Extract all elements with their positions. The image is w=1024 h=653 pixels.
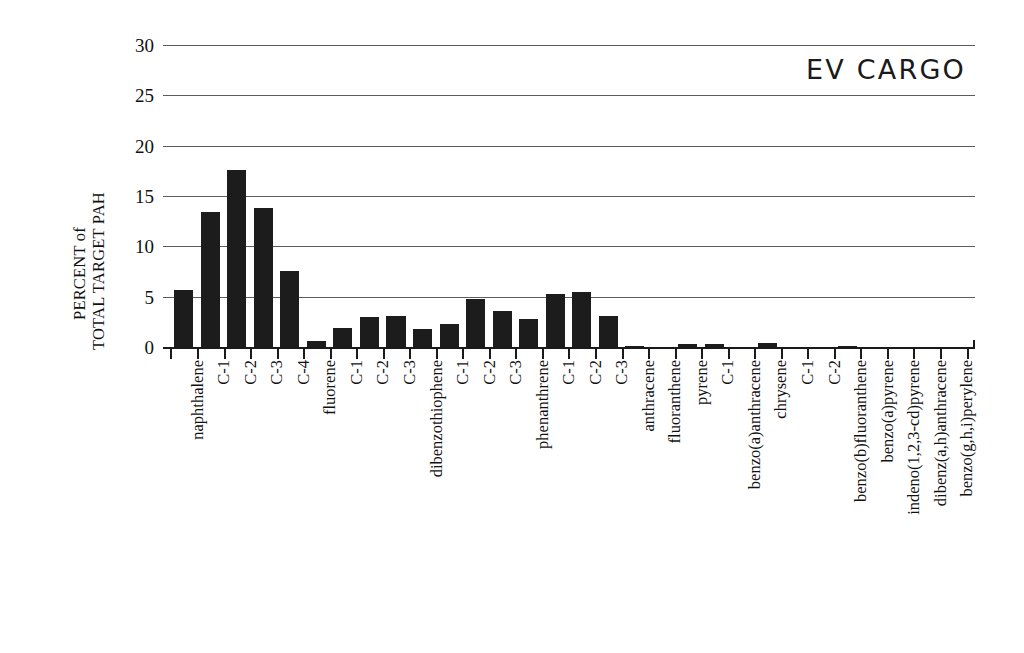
- x-tick-label: chrysene: [773, 360, 790, 419]
- chart-title: EV CARGO: [806, 54, 966, 85]
- x-tick: [781, 349, 783, 359]
- x-tick: [728, 349, 730, 359]
- bar: [201, 212, 220, 347]
- bar: [546, 294, 565, 347]
- y-tick-label: 5: [145, 287, 155, 306]
- x-tick-label: C-2: [375, 360, 392, 385]
- x-tick: [675, 349, 677, 359]
- x-tick-label: dibenz(a,h)anthracene: [933, 360, 950, 506]
- x-tick-label: C-1: [216, 360, 233, 385]
- bar: [174, 290, 193, 347]
- x-tick-label: pyrene: [694, 360, 711, 405]
- bar: [227, 170, 246, 347]
- y-tick-label: 30: [135, 36, 154, 55]
- x-tick-label: benzo(g,h,i)perylene: [959, 360, 976, 497]
- x-axis-ticks: [163, 349, 975, 359]
- x-tick-label: benzo(a)pyrene: [880, 360, 897, 463]
- bar: [254, 208, 273, 347]
- x-tick: [409, 349, 411, 359]
- x-tick: [622, 349, 624, 359]
- x-tick-label: C-1: [349, 360, 366, 385]
- y-tick-label: 20: [135, 136, 154, 155]
- x-tick-label: benzo(b)fluoranthene: [853, 360, 870, 502]
- y-tick-label: 10: [135, 237, 154, 256]
- x-tick-label: C-2: [243, 360, 260, 385]
- x-tick: [303, 349, 305, 359]
- x-tick-label: anthracene: [641, 360, 658, 431]
- y-axis-label: PERCENT of TOTAL TARGET PAH: [46, 60, 106, 350]
- bar: [466, 299, 485, 347]
- bar: [599, 316, 618, 347]
- y-axis-label-line-2: TOTAL TARGET PAH: [89, 192, 109, 350]
- x-tick: [224, 349, 226, 359]
- x-tick-label: fluoranthene: [667, 360, 684, 443]
- bar: [280, 271, 299, 348]
- x-tick: [356, 349, 358, 359]
- bar: [519, 319, 538, 347]
- x-tick-label: phenanthrene: [535, 360, 552, 449]
- x-tick-label: C-4: [296, 360, 313, 385]
- bar: [333, 328, 352, 347]
- x-tick: [568, 349, 570, 359]
- y-tick-label: 15: [135, 187, 154, 206]
- x-tick-label: C-3: [614, 360, 631, 385]
- x-tick: [330, 349, 332, 359]
- x-tick: [515, 349, 517, 359]
- x-tick: [754, 349, 756, 359]
- x-tick-label: fluorene: [322, 360, 339, 415]
- x-tick: [648, 349, 650, 359]
- y-tick-label: 25: [135, 86, 154, 105]
- x-tick: [170, 349, 172, 359]
- x-tick: [913, 349, 915, 359]
- x-tick: [462, 349, 464, 359]
- x-tick-label: C-1: [561, 360, 578, 385]
- x-tick-label: C-1: [720, 360, 737, 385]
- x-tick-label: naphthalene: [190, 360, 207, 440]
- bar: [413, 329, 432, 347]
- x-axis-right-cap: [973, 340, 975, 349]
- x-tick: [595, 349, 597, 359]
- x-tick: [887, 349, 889, 359]
- y-axis-tick-labels: 051015202530: [112, 45, 154, 347]
- x-tick-label: C-2: [588, 360, 605, 385]
- chart-figure: PERCENT of TOTAL TARGET PAH 051015202530…: [0, 0, 1024, 653]
- x-tick-label: dibenzothiophene: [429, 360, 446, 477]
- x-tick-label: C-2: [482, 360, 499, 385]
- x-tick: [383, 349, 385, 359]
- x-tick: [860, 349, 862, 359]
- x-tick-label: benzo(a)anthracene: [747, 360, 764, 489]
- bar: [493, 311, 512, 347]
- bar: [360, 317, 379, 347]
- x-tick-label: C-2: [827, 360, 844, 385]
- x-tick-label: C-3: [508, 360, 525, 385]
- x-tick: [197, 349, 199, 359]
- x-tick-label: indeno(1,2,3-cd)pyrene: [906, 360, 923, 515]
- x-tick: [277, 349, 279, 359]
- x-tick: [436, 349, 438, 359]
- x-tick-label: C-1: [455, 360, 472, 385]
- x-tick: [250, 349, 252, 359]
- bar: [440, 324, 459, 347]
- x-axis-tick-labels: naphthaleneC-1C-2C-3C-4fluoreneC-1C-2C-3…: [163, 360, 975, 620]
- x-tick: [834, 349, 836, 359]
- y-axis-label-line-1: PERCENT of: [70, 227, 90, 320]
- bar-series: [163, 45, 975, 347]
- x-tick: [940, 349, 942, 359]
- x-tick: [489, 349, 491, 359]
- x-tick-label: C-3: [269, 360, 286, 385]
- x-tick: [967, 349, 969, 359]
- x-tick: [701, 349, 703, 359]
- y-tick-label: 0: [145, 338, 155, 357]
- x-tick: [542, 349, 544, 359]
- x-tick-label: C-3: [402, 360, 419, 385]
- bar: [572, 292, 591, 347]
- bar: [386, 316, 405, 347]
- x-tick-label: C-1: [800, 360, 817, 385]
- x-tick: [807, 349, 809, 359]
